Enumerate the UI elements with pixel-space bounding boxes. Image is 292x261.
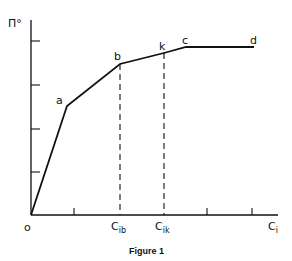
x-axis-label: Ci [268, 220, 278, 235]
curve-o-a-b-k-c-d [31, 47, 254, 215]
y-axis-label: Π° [8, 17, 22, 30]
x-tick-label-cib: Cib [111, 220, 126, 235]
point-label-d: d [250, 34, 257, 47]
point-label-k: k [159, 40, 166, 53]
x-tick-label-cik: Cik [155, 220, 170, 235]
figure-caption: Figure 1 [129, 246, 164, 256]
point-label-c: c [182, 34, 188, 47]
x-ticks [74, 208, 252, 215]
origin-label: o [24, 221, 31, 234]
y-ticks [31, 41, 40, 172]
figure-diagram: Π° a b k c d o Cib Cik Ci Figure 1 [0, 0, 292, 261]
point-label-a: a [56, 94, 63, 107]
point-label-b: b [114, 50, 121, 63]
